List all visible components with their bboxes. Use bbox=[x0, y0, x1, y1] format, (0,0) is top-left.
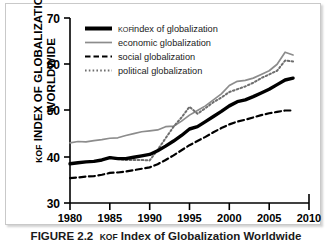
figure-caption-text: Index of Globalization Worldwide bbox=[118, 230, 302, 242]
figure-caption: FIGURE 2.2 KOF Index of Globalization Wo… bbox=[5, 230, 327, 242]
x-tick-label-1985: 1985 bbox=[98, 212, 122, 224]
figure-frame: KOF INDEX OF GLOBALIZATION WORLDWIDE 70 … bbox=[5, 3, 321, 225]
figure-container: KOF INDEX OF GLOBALIZATION WORLDWIDE 70 … bbox=[0, 0, 332, 244]
x-tick-label-1995: 1995 bbox=[177, 212, 201, 224]
y-axis-ticks bbox=[64, 18, 70, 203]
y-tick-label-70: 70 bbox=[47, 12, 61, 26]
x-tick-label-2000: 2000 bbox=[217, 212, 241, 224]
y-tick-label-40: 40 bbox=[47, 151, 61, 165]
y-tick-label-60: 60 bbox=[47, 58, 61, 72]
chart-plot: 70 60 50 40 30 1980 1985 1990 bbox=[6, 4, 322, 226]
y-tick-label-50: 50 bbox=[47, 104, 61, 118]
y-tick-label-30: 30 bbox=[47, 197, 61, 211]
x-tick-label-1980: 1980 bbox=[58, 212, 82, 224]
x-axis-tick-labels: 1980 1985 1990 1995 2000 2005 2010 bbox=[58, 212, 321, 224]
legend-label-political: political globalization bbox=[118, 66, 202, 76]
chart-legend: KOF index of globalization economic glob… bbox=[85, 24, 218, 76]
x-tick-label-2005: 2005 bbox=[257, 212, 281, 224]
x-tick-label-1990: 1990 bbox=[137, 212, 161, 224]
figure-caption-number: FIGURE 2.2 bbox=[31, 230, 94, 242]
figure-caption-smallcaps: KOF bbox=[100, 232, 118, 242]
legend-label-social: social globalization bbox=[118, 52, 195, 62]
legend-label-kof: index of globalization bbox=[132, 24, 218, 34]
y-axis-tick-labels: 70 60 50 40 30 bbox=[47, 12, 61, 211]
x-axis-ticks bbox=[70, 203, 309, 210]
legend-label-economic: economic globalization bbox=[118, 38, 211, 48]
x-tick-label-2010: 2010 bbox=[297, 212, 321, 224]
